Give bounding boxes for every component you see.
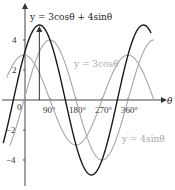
series-label-sin: y = 4sinθ	[121, 134, 165, 144]
x-tick-label: 270°	[95, 105, 113, 115]
y-tick-label: 2	[12, 65, 17, 75]
y-tick-label: 4	[12, 35, 17, 45]
series-label-cos: y = 3cosθ	[73, 59, 119, 69]
chart: 90°180°270°360°42−2−4 θ 0 y = 3cosθ + 4s…	[0, 0, 175, 190]
series-label-sum: y = 3cosθ + 4sinθ	[29, 12, 112, 22]
x-tick-label: 360°	[121, 105, 139, 115]
x-axis-label: θ	[167, 96, 173, 106]
origin-label: 0	[17, 102, 22, 112]
y-tick-label: −4	[6, 155, 16, 165]
